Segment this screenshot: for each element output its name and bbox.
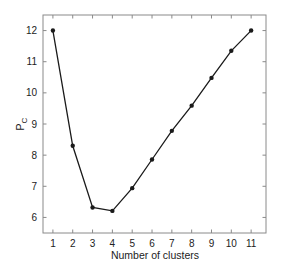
data-point (249, 28, 253, 32)
data-point (170, 129, 174, 133)
plot-frame (43, 15, 266, 233)
y-axis-label: PC (14, 117, 29, 130)
x-tick-label: 6 (149, 238, 155, 249)
data-point (110, 209, 114, 213)
x-tick-labels: 1234567891011 (50, 238, 257, 249)
x-tick-label: 3 (90, 238, 96, 249)
y-tick-label: 6 (31, 212, 37, 223)
y-axis-label-main: P (14, 123, 26, 130)
data-point (90, 205, 94, 209)
data-point (189, 103, 193, 107)
y-tick-label: 7 (31, 181, 37, 192)
data-point (51, 28, 55, 32)
data-markers (51, 28, 254, 213)
y-tick-label: 9 (31, 119, 37, 130)
x-tick-label: 9 (209, 238, 215, 249)
x-tick-label: 2 (70, 238, 76, 249)
y-tick-label: 10 (26, 87, 38, 98)
data-point (150, 157, 154, 161)
y-tick-label: 8 (31, 150, 37, 161)
plot-box (43, 15, 266, 233)
data-point (209, 76, 213, 80)
x-tick-label: 4 (110, 238, 116, 249)
y-tick-label: 11 (27, 56, 38, 67)
y-axis-label-subscript: C (20, 117, 29, 123)
data-point (71, 144, 75, 148)
data-point (229, 49, 233, 53)
line-chart: 1234567891011 6789101112 Number of clust… (0, 0, 281, 273)
data-line (53, 31, 251, 211)
x-tick-label: 11 (246, 238, 257, 249)
x-tick-label: 8 (189, 238, 195, 249)
x-axis-label: Number of clusters (111, 249, 199, 261)
x-tick-label: 1 (50, 238, 56, 249)
axis-ticks (43, 15, 266, 233)
y-tick-label: 12 (26, 25, 38, 36)
data-point (130, 186, 134, 190)
x-tick-label: 7 (169, 238, 175, 249)
x-tick-label: 5 (129, 238, 135, 249)
x-tick-label: 10 (226, 238, 238, 249)
